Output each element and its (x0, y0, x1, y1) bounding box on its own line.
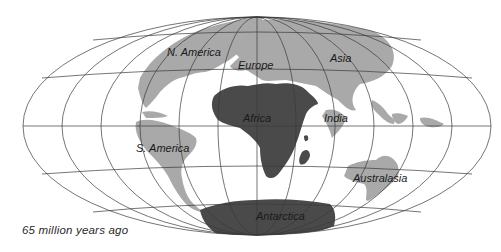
world-map: N. America Europe Asia Africa India S. A… (0, 0, 501, 252)
graticule (23, 17, 491, 235)
landmass-madagascar (299, 150, 310, 165)
label-south-america: S. America (136, 142, 189, 154)
label-australasia: Australasia (352, 172, 407, 184)
label-asia: Asia (329, 52, 351, 64)
landmass-southeast-asia (371, 100, 394, 124)
label-africa: Africa (242, 112, 271, 124)
label-north-america: N. America (167, 46, 221, 58)
label-antarctica: Antarctica (255, 210, 305, 222)
label-europe: Europe (238, 59, 273, 71)
landmass-south-america (136, 120, 208, 213)
landmass-madagascar-north (304, 135, 308, 141)
landmass-central-america (142, 111, 168, 118)
label-india: India (324, 112, 348, 124)
map-caption: 65 million years ago (22, 224, 128, 236)
